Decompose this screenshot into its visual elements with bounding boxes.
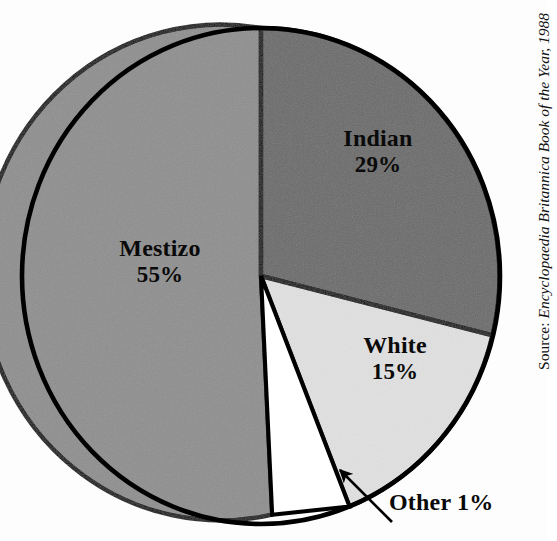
slice-label-indian-value: 29% [298, 152, 458, 178]
slice-label-mestizo: Mestizo 55% [60, 235, 260, 288]
slice-label-indian-name: Indian [298, 125, 458, 152]
source-note-prefix: Source: [535, 323, 553, 370]
source-note-title: Encyclopaedia Britannica Book of the Yea… [535, 13, 553, 323]
slice-label-indian: Indian 29% [298, 125, 458, 178]
slice-label-mestizo-name: Mestizo [60, 235, 260, 262]
slice-label-white-name: White [320, 332, 470, 359]
slice-label-white: White 15% [320, 332, 470, 385]
slice-label-mestizo-value: 55% [60, 262, 260, 288]
slice-label-other-text: Other 1% [389, 489, 493, 515]
source-note: Source: Encyclopaedia Britannica Book of… [529, 0, 557, 541]
slice-label-other: Other 1% [389, 489, 539, 516]
slice-label-white-value: 15% [320, 359, 470, 385]
